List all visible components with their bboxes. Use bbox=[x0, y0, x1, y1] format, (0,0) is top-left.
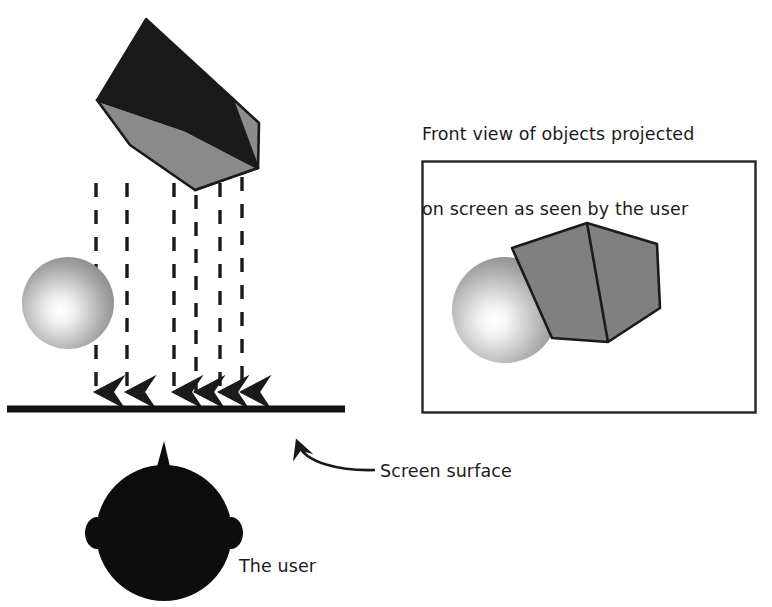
projection-rays bbox=[96, 150, 242, 392]
sphere-3d bbox=[22, 257, 114, 349]
projected-view-caption: Front view of objects projected on scree… bbox=[422, 72, 694, 272]
diagram-canvas: Front view of objects projected on scree… bbox=[0, 0, 772, 607]
projected-view-caption-line2: on screen as seen by the user bbox=[422, 197, 694, 222]
user-head-circle bbox=[96, 465, 232, 601]
projected-view-caption-line1: Front view of objects projected bbox=[422, 122, 694, 147]
the-user-label: The user bbox=[239, 554, 316, 579]
cube-3d bbox=[97, 19, 259, 190]
screen-surface-label: Screen surface bbox=[380, 459, 512, 484]
screen-surface-arrow bbox=[298, 444, 375, 470]
user-head bbox=[85, 441, 243, 601]
